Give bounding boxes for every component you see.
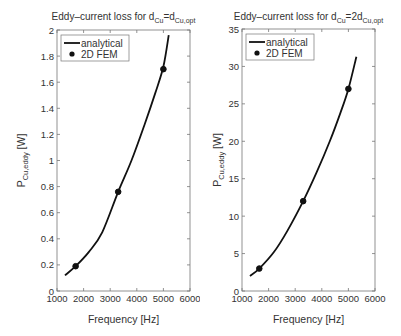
y-tick-label: 1.2 <box>41 129 54 140</box>
y-tick-label: 2 <box>49 25 54 36</box>
analytical-line <box>65 35 169 275</box>
y-tick-label: 5 <box>234 248 239 259</box>
legend-label-fem: 2D FEM <box>266 48 303 59</box>
fem-marker <box>73 263 79 269</box>
x-tick-label: 2000 <box>73 293 94 304</box>
legend: analytical2D FEM <box>246 34 314 60</box>
y-tick-label: 20 <box>228 136 239 147</box>
chart-title: Eddy–current loss for dCu=2dCu,opt <box>234 11 383 25</box>
y-tick-label: 1 <box>49 155 54 166</box>
axes-box <box>57 30 190 291</box>
y-tick-label: 0.4 <box>41 233 54 244</box>
y-axis-label: PCu,eddy [W] <box>211 133 226 187</box>
legend-label-analytical: analytical <box>81 38 123 49</box>
legend-label-fem: 2D FEM <box>81 49 118 60</box>
legend-label-analytical: analytical <box>266 37 308 48</box>
chart-title: Eddy–current loss for dCu=dCu,opt <box>52 11 196 25</box>
y-tick-label: 15 <box>228 173 239 184</box>
legend-marker-icon <box>69 51 74 56</box>
analytical-line <box>250 57 356 276</box>
chart-left: Eddy–current loss for dCu=dCu,opt1000200… <box>0 0 200 336</box>
fem-marker <box>300 198 306 204</box>
fem-marker <box>115 189 121 195</box>
y-tick-label: 25 <box>228 98 239 109</box>
y-tick-label: 1.8 <box>41 51 54 62</box>
y-tick-label: 0 <box>49 286 54 297</box>
x-axis-label: Frequency [Hz] <box>273 313 344 325</box>
x-tick-label: 6000 <box>179 293 200 304</box>
x-axis-label: Frequency [Hz] <box>88 313 159 325</box>
x-tick-label: 2000 <box>258 293 279 304</box>
x-tick-label: 4000 <box>126 293 147 304</box>
y-tick-label: 30 <box>228 61 239 72</box>
x-tick-label: 6000 <box>364 293 385 304</box>
legend: analytical2D FEM <box>61 35 129 61</box>
x-tick-label: 4000 <box>311 293 332 304</box>
y-tick-label: 1.4 <box>41 103 54 114</box>
y-tick-label: 10 <box>228 211 239 222</box>
y-tick-label: 0 <box>234 286 239 297</box>
x-tick-label: 3000 <box>100 293 121 304</box>
x-tick-label: 5000 <box>338 293 359 304</box>
axes-box <box>242 29 375 291</box>
y-tick-label: 1.6 <box>41 77 54 88</box>
fem-marker <box>161 66 167 72</box>
x-tick-label: 3000 <box>285 293 306 304</box>
y-tick-label: 0.8 <box>41 181 54 192</box>
legend-marker-icon <box>254 50 259 55</box>
y-tick-label: 0.2 <box>41 259 54 270</box>
y-tick-label: 0.6 <box>41 207 54 218</box>
fem-marker <box>256 266 262 272</box>
fem-marker <box>346 86 352 92</box>
chart-right: Eddy–current loss for dCu=2dCu,opt100020… <box>200 0 401 336</box>
y-tick-label: 35 <box>228 24 239 35</box>
x-tick-label: 5000 <box>153 293 174 304</box>
y-axis-label: PCu,eddy [W] <box>15 134 30 188</box>
